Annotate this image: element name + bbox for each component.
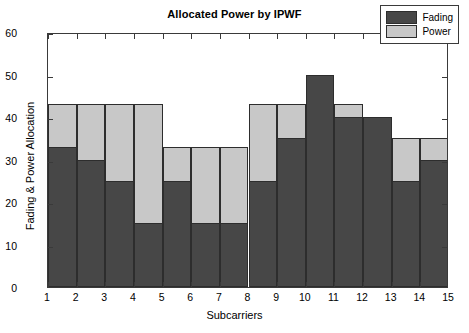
bar-segment-fading [392,181,421,287]
bar-segment-fading [334,117,363,287]
x-tick-label: 1 [32,291,62,303]
bar-segment-fading [220,223,249,287]
y-tick-mark [442,204,447,205]
bar-segment-fading [77,160,106,288]
bar-subcarrier-10 [306,75,335,288]
bar-segment-power [392,138,421,182]
bar-segment-power [277,104,306,139]
y-tick-mark [48,204,53,205]
bar-subcarrier-2 [77,104,106,287]
bar-segment-fading [249,181,278,287]
bar-subcarrier-11 [334,104,363,287]
x-tick-label: 4 [118,291,148,303]
y-tick-label: 30 [0,155,17,167]
legend-swatch-fading [386,11,417,24]
bar-subcarrier-3 [105,104,134,287]
x-tick-mark [191,34,192,39]
x-tick-mark [191,282,192,287]
bar-subcarrier-1 [48,104,77,287]
y-tick-label: 20 [0,197,17,209]
bar-segment-power [191,147,220,225]
x-tick-mark [249,34,250,39]
chart-legend: Fading Power [380,5,459,44]
x-tick-mark [277,282,278,287]
x-tick-label: 8 [233,291,263,303]
bar-subcarrier-7 [220,147,249,287]
legend-label-power: Power [422,26,450,37]
x-tick-mark [105,34,106,39]
bar-segment-fading [105,181,134,287]
x-tick-mark [277,34,278,39]
bar-segment-fading [420,160,448,288]
x-tick-mark [306,282,307,287]
x-tick-label: 3 [89,291,119,303]
y-tick-mark [48,162,53,163]
x-tick-mark [77,282,78,287]
bar-subcarrier-4 [134,104,163,287]
x-tick-label: 6 [175,291,205,303]
x-tick-label: 14 [404,291,434,303]
plot-area [47,33,448,288]
bar-subcarrier-8 [249,104,278,287]
y-tick-mark [442,247,447,248]
x-tick-label: 12 [347,291,377,303]
x-tick-mark [363,282,364,287]
bar-segment-power [105,104,134,182]
bar-segment-power [334,104,363,118]
y-tick-label: 10 [0,240,17,252]
y-tick-mark [48,247,53,248]
bar-segment-power [48,104,77,148]
bar-subcarrier-5 [163,147,192,287]
x-tick-mark [48,34,49,39]
bar-segment-fading [363,117,392,287]
bar-segment-fading [277,138,306,287]
bar-series-group [48,34,447,287]
x-tick-mark [163,34,164,39]
legend-swatch-power [386,25,417,38]
x-tick-label: 9 [261,291,291,303]
x-tick-label: 15 [433,291,463,303]
legend-item-fading: Fading [386,11,453,24]
x-tick-mark [363,34,364,39]
bar-segment-power [220,147,249,225]
bar-segment-fading [48,147,77,287]
bar-segment-power [77,104,106,160]
bar-subcarrier-9 [277,104,306,287]
x-tick-mark [306,34,307,39]
bar-subcarrier-12 [363,117,392,287]
y-tick-mark [48,77,53,78]
x-tick-label: 13 [376,291,406,303]
bar-segment-power [420,138,448,160]
bar-segment-fading [163,181,192,287]
y-tick-label: 50 [0,70,17,82]
bar-segment-fading [191,223,220,287]
x-tick-mark [48,282,49,287]
x-tick-label: 5 [147,291,177,303]
y-tick-label: 60 [0,27,17,39]
bar-segment-power [134,104,163,224]
x-tick-mark [220,34,221,39]
x-tick-mark [77,34,78,39]
y-tick-label: 0 [0,282,17,294]
x-tick-mark [220,282,221,287]
bar-segment-fading [134,223,163,287]
x-tick-mark [420,282,421,287]
legend-label-fading: Fading [422,12,453,23]
x-tick-mark [334,34,335,39]
bar-segment-power [249,104,278,182]
y-tick-mark [442,162,447,163]
x-tick-label: 2 [61,291,91,303]
x-tick-mark [249,282,250,287]
y-axis-title: Fading & Power Allocation [24,51,36,281]
x-tick-mark [134,282,135,287]
bar-segment-fading [306,75,335,288]
bar-subcarrier-6 [191,147,220,287]
x-tick-mark [105,282,106,287]
figure: Allocated Power by IPWF Fading & Power A… [0,0,469,333]
x-tick-label: 10 [290,291,320,303]
x-tick-label: 11 [318,291,348,303]
y-tick-mark [442,119,447,120]
y-tick-mark [48,119,53,120]
y-tick-label: 40 [0,112,17,124]
x-tick-mark [334,282,335,287]
